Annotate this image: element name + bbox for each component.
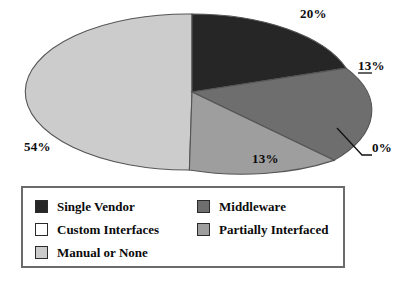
slice-label-middleware: 13% bbox=[358, 58, 385, 74]
legend-label-middleware: Middleware bbox=[219, 200, 286, 213]
pie-chart-figure: 20% 13% 0% 13% 54% Single Vendor Custom … bbox=[0, 0, 407, 281]
legend-item-single-vendor[interactable]: Single Vendor bbox=[35, 195, 159, 218]
legend-label-single-vendor: Single Vendor bbox=[57, 200, 135, 213]
legend-column-right: Middleware Partially Interfaced bbox=[197, 195, 328, 241]
slice-label-single-vendor: 20% bbox=[300, 6, 327, 22]
legend-swatch-single-vendor bbox=[35, 200, 48, 213]
legend-swatch-manual-or-none bbox=[35, 246, 48, 259]
slice-label-manual-or-none: 54% bbox=[24, 139, 51, 155]
legend-item-custom-interfaces[interactable]: Custom Interfaces bbox=[35, 218, 159, 241]
legend-swatch-partially-interfaced bbox=[197, 223, 210, 236]
chart-legend: Single Vendor Custom Interfaces Manual o… bbox=[21, 186, 345, 268]
legend-label-partially-interfaced: Partially Interfaced bbox=[219, 223, 328, 236]
legend-item-manual-or-none[interactable]: Manual or None bbox=[35, 241, 159, 264]
legend-column-left: Single Vendor Custom Interfaces Manual o… bbox=[35, 195, 159, 264]
legend-label-manual-or-none: Manual or None bbox=[57, 246, 148, 259]
legend-swatch-middleware bbox=[197, 200, 210, 213]
slice-label-custom-interfaces: 0% bbox=[372, 140, 392, 156]
legend-item-partially-interfaced[interactable]: Partially Interfaced bbox=[197, 218, 328, 241]
legend-item-middleware[interactable]: Middleware bbox=[197, 195, 328, 218]
slice-label-partially-interfaced: 13% bbox=[252, 151, 279, 167]
legend-swatch-custom-interfaces bbox=[35, 223, 48, 236]
legend-label-custom-interfaces: Custom Interfaces bbox=[57, 223, 159, 236]
